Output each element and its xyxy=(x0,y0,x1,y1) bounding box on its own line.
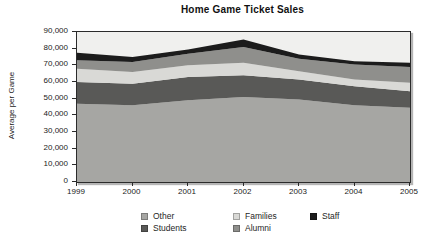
y-tick-mark xyxy=(72,81,76,82)
legend-label: Alumni xyxy=(245,223,271,233)
y-tick-label: 60,000 xyxy=(8,76,68,86)
legend-label: Staff xyxy=(322,211,339,221)
x-tick-mark xyxy=(243,182,244,186)
y-tick-label: 80,000 xyxy=(8,43,68,53)
legend-item-alumni: Alumni xyxy=(233,223,310,233)
chart-canvas xyxy=(77,32,410,182)
legend-item-staff: Staff xyxy=(310,211,380,221)
legend-item-students: Students xyxy=(141,223,233,233)
x-tick-mark xyxy=(76,182,77,186)
y-tick-label: 10,000 xyxy=(8,159,68,169)
y-tick-label: 0 xyxy=(8,176,68,186)
y-tick-label: 20,000 xyxy=(8,143,68,153)
y-tick-label: 90,000 xyxy=(8,26,68,36)
legend-swatch-icon xyxy=(141,225,148,232)
legend-swatch-icon xyxy=(141,213,148,220)
legend-label: Families xyxy=(245,211,277,221)
y-tick-mark xyxy=(72,31,76,32)
area-series-other xyxy=(77,97,410,182)
y-tick-mark xyxy=(72,164,76,165)
x-tick-label: 2000 xyxy=(112,187,152,197)
legend-item-families: Families xyxy=(233,211,310,221)
chart-title: Home Game Ticket Sales xyxy=(76,4,409,15)
x-tick-label: 1999 xyxy=(56,187,96,197)
y-tick-label: 40,000 xyxy=(8,109,68,119)
x-tick-label: 2001 xyxy=(167,187,207,197)
stacked-area-chart: Home Game Ticket Sales Average per Game … xyxy=(0,0,441,248)
x-tick-mark xyxy=(298,182,299,186)
x-tick-label: 2003 xyxy=(278,187,318,197)
x-tick-label: 2004 xyxy=(334,187,374,197)
x-tick-mark xyxy=(354,182,355,186)
legend-swatch-icon xyxy=(233,225,240,232)
y-tick-mark xyxy=(72,131,76,132)
x-tick-label: 2002 xyxy=(223,187,263,197)
legend-swatch-icon xyxy=(310,213,317,220)
y-tick-label: 30,000 xyxy=(8,126,68,136)
legend: OtherFamiliesStaffStudentsAlumni xyxy=(141,210,380,234)
legend-swatch-icon xyxy=(233,213,240,220)
legend-label: Students xyxy=(153,223,187,233)
y-tick-mark xyxy=(72,98,76,99)
y-tick-mark xyxy=(72,114,76,115)
x-tick-mark xyxy=(187,182,188,186)
y-tick-mark xyxy=(72,64,76,65)
legend-label: Other xyxy=(153,211,174,221)
plot-area xyxy=(76,31,411,183)
x-tick-mark xyxy=(409,182,410,186)
legend-item-other: Other xyxy=(141,211,233,221)
y-tick-label: 70,000 xyxy=(8,59,68,69)
y-tick-label: 50,000 xyxy=(8,93,68,103)
x-tick-mark xyxy=(132,182,133,186)
y-tick-mark xyxy=(72,48,76,49)
x-tick-label: 2005 xyxy=(389,187,429,197)
y-tick-mark xyxy=(72,148,76,149)
